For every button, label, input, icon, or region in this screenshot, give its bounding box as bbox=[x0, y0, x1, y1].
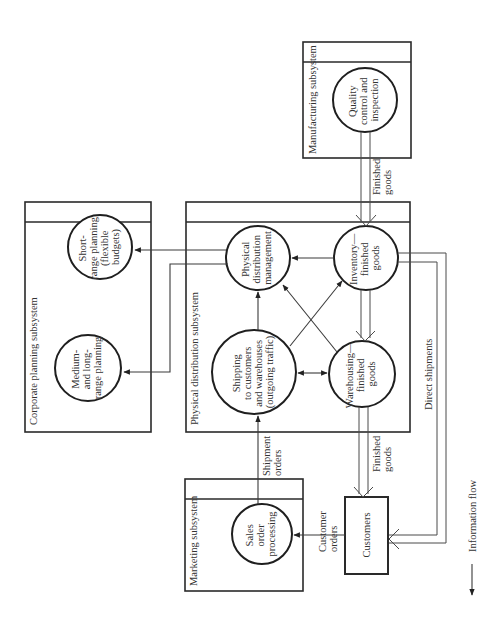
flow-label-finished-goods-top: Finished goods bbox=[371, 156, 393, 195]
marketing-title: Marketing subsystem bbox=[188, 496, 199, 586]
entity-customers: Customers bbox=[345, 497, 388, 574]
process-short-range-planning: Short- range planning (flexible budgets) bbox=[68, 214, 132, 279]
distribution-system-diagram: Corporate planning subsystem Short- rang… bbox=[0, 0, 478, 623]
svg-text:Customers: Customers bbox=[361, 513, 372, 558]
process-shipping: Shipping to customers and warehouses (ou… bbox=[212, 330, 296, 414]
physical-distribution-title: Physical distribution subsystem bbox=[189, 292, 200, 425]
process-inventory-finished-goods: Inventory— finished goods bbox=[334, 226, 398, 290]
flow-label-finished-goods-bottom: Finished goods bbox=[371, 433, 393, 472]
process-physical-distribution-management: Physical distribution management bbox=[226, 226, 290, 290]
process-sales-order-processing: Sales order processing bbox=[232, 504, 292, 564]
flow-label-shipment-orders: Shipment orders bbox=[261, 433, 283, 476]
corporate-planning-title: Corporate planning subsystem bbox=[28, 297, 39, 425]
svg-text:Physical distribution: Physical distribution management bbox=[240, 231, 273, 285]
legend: Information flow bbox=[467, 480, 478, 595]
process-warehousing-finished-goods: Warehousing— finished goods bbox=[329, 340, 395, 408]
process-quality-control: Quality control and inspection bbox=[333, 68, 397, 132]
process-medium-long-range-planning: Medium- and long- range planning bbox=[55, 335, 121, 401]
flow-label-customer-orders: Customer orders bbox=[317, 509, 339, 552]
manufacturing-title: Manufacturing subsystem bbox=[307, 45, 318, 154]
legend-information-flow: Information flow bbox=[467, 480, 478, 552]
flow-label-direct-shipments: Direct shipments bbox=[423, 339, 434, 410]
